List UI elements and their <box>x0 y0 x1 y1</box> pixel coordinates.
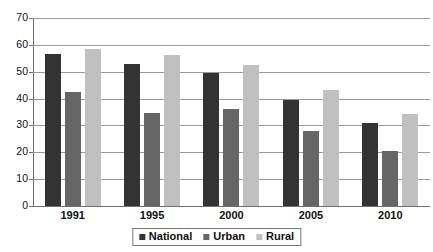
bar-national-2005[interactable] <box>283 100 299 206</box>
legend-swatch-icon <box>256 234 262 240</box>
y-axis-tick-labels: 706050403020100 <box>0 0 28 252</box>
y-axis-tick-label: 40 <box>2 93 28 104</box>
y-axis-tick-mark <box>29 72 33 73</box>
bar-rural-2000[interactable] <box>243 65 259 206</box>
bar-urban-2000[interactable] <box>223 109 239 206</box>
bar-group <box>112 18 191 206</box>
y-axis-tick-label: 70 <box>2 12 28 23</box>
legend-item-rural[interactable]: Rural <box>256 231 294 242</box>
y-axis-tick-mark <box>29 206 33 207</box>
bar-group <box>351 18 430 206</box>
bar-urban-2010[interactable] <box>382 151 398 206</box>
bar-national-1995[interactable] <box>124 64 140 206</box>
legend-label: Rural <box>266 231 294 242</box>
bar-urban-1995[interactable] <box>144 113 160 206</box>
y-axis-tick-label: 60 <box>2 39 28 50</box>
y-axis-tick-label: 10 <box>2 173 28 184</box>
legend-swatch-icon <box>203 234 209 240</box>
legend-item-national[interactable]: National <box>139 231 192 242</box>
y-axis-tick-label: 50 <box>2 66 28 77</box>
x-axis-tick-label: 2005 <box>271 210 350 221</box>
bar-urban-2005[interactable] <box>303 131 319 206</box>
y-axis-tick-mark <box>29 45 33 46</box>
y-axis-tick-mark <box>29 152 33 153</box>
y-axis-tick-mark <box>29 18 33 19</box>
gridline <box>33 206 430 207</box>
x-axis-tick-label: 2010 <box>351 210 430 221</box>
legend-item-urban[interactable]: Urban <box>203 231 245 242</box>
plot-area <box>33 18 430 206</box>
bar-national-2000[interactable] <box>203 73 219 206</box>
bar-national-1991[interactable] <box>45 54 61 206</box>
bar-rural-1995[interactable] <box>164 55 180 206</box>
x-axis-tick-label: 1991 <box>33 210 112 221</box>
bar-rural-2010[interactable] <box>402 114 418 206</box>
legend-swatch-icon <box>139 234 145 240</box>
legend-label: National <box>149 231 192 242</box>
legend-label: Urban <box>213 231 245 242</box>
bar-rural-2005[interactable] <box>323 90 339 206</box>
y-axis-tick-mark <box>29 179 33 180</box>
y-axis-tick-mark <box>29 125 33 126</box>
chart-legend: NationalUrbanRural <box>132 228 301 246</box>
bar-chart: 706050403020100 19911995200020052010 Nat… <box>0 0 433 252</box>
bar-group <box>271 18 350 206</box>
bar-rural-1991[interactable] <box>85 49 101 206</box>
bar-group <box>33 18 112 206</box>
y-axis-tick-mark <box>29 99 33 100</box>
y-axis-tick-label: 0 <box>2 200 28 211</box>
bar-urban-1991[interactable] <box>65 92 81 206</box>
y-axis-tick-label: 30 <box>2 119 28 130</box>
x-axis-tick-label: 2000 <box>192 210 271 221</box>
x-axis-tick-label: 1995 <box>112 210 191 221</box>
y-axis-tick-label: 20 <box>2 146 28 157</box>
bar-group <box>192 18 271 206</box>
bar-national-2010[interactable] <box>362 123 378 206</box>
